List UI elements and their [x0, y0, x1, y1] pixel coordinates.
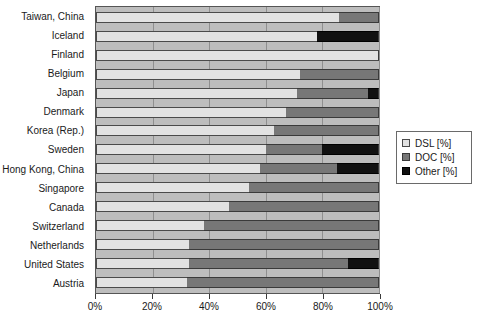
y-axis-label: Sweden — [0, 144, 90, 155]
y-axis-label: Iceland — [0, 30, 90, 41]
bar-segment-dsl — [96, 201, 229, 212]
bar-segment-dsl — [96, 182, 249, 193]
bar-row — [96, 239, 379, 250]
gridline — [379, 7, 380, 293]
x-axis-tick — [209, 294, 210, 299]
bar-row — [96, 125, 379, 136]
bar-row — [96, 201, 379, 212]
bar-segment-other — [348, 258, 379, 269]
bar-segment-doc — [266, 144, 323, 155]
x-axis-tick-label: 0% — [88, 301, 102, 312]
x-axis-tick — [380, 294, 381, 299]
bar-row — [96, 277, 379, 288]
y-axis-label: Japan — [0, 87, 90, 98]
chart-legend: DSL [%]DOC [%]Other [%] — [396, 131, 472, 184]
bar-segment-doc — [260, 163, 336, 174]
x-axis-tick-label: 40% — [199, 301, 219, 312]
bar-segment-doc — [249, 182, 379, 193]
y-axis-label: Korea (Rep.) — [0, 125, 90, 136]
y-axis-label: Singapore — [0, 183, 90, 194]
y-axis-label: Belgium — [0, 68, 90, 79]
bar-segment-dsl — [96, 107, 286, 118]
y-axis-label: Netherlands — [0, 240, 90, 251]
y-axis-label: United States — [0, 259, 90, 270]
x-axis-tick — [323, 294, 324, 299]
bar-segment-dsl — [96, 220, 204, 231]
bar-row — [96, 50, 379, 61]
bar-segment-doc — [300, 69, 379, 80]
legend-label: DSL [%] — [415, 138, 451, 149]
bar-segment-other — [337, 163, 379, 174]
bar-segment-doc — [229, 201, 379, 212]
bar-segment-dsl — [96, 88, 297, 99]
bar-row — [96, 182, 379, 193]
bar-segment-dsl — [96, 144, 266, 155]
x-axis-tick-label: 20% — [142, 301, 162, 312]
x-axis-labels: 0%20%40%60%80%100% — [95, 301, 381, 317]
x-axis-tick — [95, 294, 96, 299]
y-axis-label: Finland — [0, 49, 90, 60]
y-axis-label: Denmark — [0, 106, 90, 117]
bar-segment-dsl — [96, 239, 189, 250]
legend-item[interactable]: DSL [%] — [402, 136, 466, 150]
bar-segment-dsl — [96, 125, 274, 136]
bar-segment-dsl — [96, 12, 339, 23]
bar-segment-dsl — [96, 258, 189, 269]
bar-row — [96, 144, 379, 155]
bar-segment-dsl — [96, 31, 317, 42]
bar-rows — [96, 7, 379, 293]
x-axis-tick — [266, 294, 267, 299]
y-axis-label: Canada — [0, 202, 90, 213]
x-axis-tick-label: 100% — [367, 301, 393, 312]
y-axis-labels: Taiwan, ChinaIcelandFinlandBelgiumJapanD… — [0, 6, 90, 294]
bar-row — [96, 88, 379, 99]
chart-container: Taiwan, ChinaIcelandFinlandBelgiumJapanD… — [0, 0, 477, 330]
bar-segment-doc — [274, 125, 379, 136]
bar-row — [96, 258, 379, 269]
bar-segment-dsl — [96, 277, 187, 288]
x-axis-tick — [152, 294, 153, 299]
bar-segment-dsl — [96, 50, 379, 61]
legend-item[interactable]: DOC [%] — [402, 150, 466, 164]
bar-row — [96, 163, 379, 174]
bar-segment-dsl — [96, 163, 260, 174]
bar-segment-doc — [189, 258, 347, 269]
legend-swatch-doc — [402, 153, 410, 161]
legend-label: DOC [%] — [415, 152, 454, 163]
bar-segment-doc — [297, 88, 368, 99]
bar-row — [96, 12, 379, 23]
bar-segment-doc — [204, 220, 379, 231]
bar-segment-doc — [187, 277, 379, 288]
y-axis-label: Switzerland — [0, 221, 90, 232]
bar-segment-other — [368, 88, 379, 99]
bar-row — [96, 220, 379, 231]
y-axis-label: Austria — [0, 278, 90, 289]
plot-area — [95, 6, 380, 294]
bar-segment-other — [322, 144, 379, 155]
legend-swatch-dsl — [402, 139, 410, 147]
bar-segment-dsl — [96, 69, 300, 80]
bar-segment-doc — [339, 12, 379, 23]
legend-label: Other [%] — [415, 166, 457, 177]
x-axis-tick-label: 60% — [256, 301, 276, 312]
bar-row — [96, 31, 379, 42]
bar-segment-other — [317, 31, 379, 42]
y-axis-label: Taiwan, China — [0, 11, 90, 22]
bar-row — [96, 69, 379, 80]
bar-segment-doc — [286, 107, 379, 118]
y-axis-label: Hong Kong, China — [0, 164, 90, 175]
x-axis-ticks — [95, 294, 381, 300]
legend-item[interactable]: Other [%] — [402, 164, 466, 178]
legend-swatch-other — [402, 167, 410, 175]
bar-segment-doc — [189, 239, 379, 250]
x-axis-tick-label: 80% — [313, 301, 333, 312]
bar-row — [96, 107, 379, 118]
